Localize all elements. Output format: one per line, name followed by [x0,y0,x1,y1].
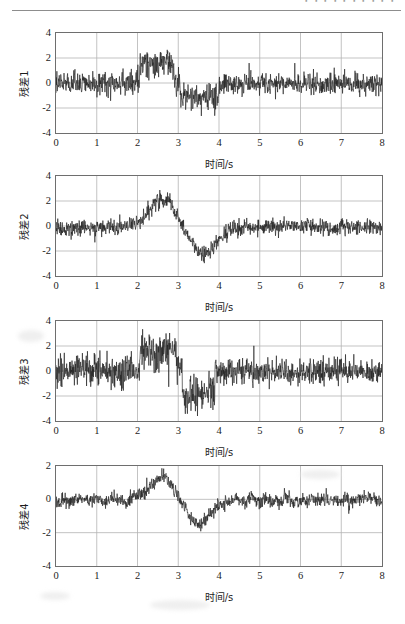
plot-area-4 [55,465,383,567]
x-tick-label: 0 [47,425,65,436]
x-axis-label-4: 时间/s [179,589,259,604]
x-tick-label: 6 [292,280,310,291]
x-tick-label: 1 [88,425,106,436]
x-tick-label: 7 [332,570,350,581]
y-tick-label: 4 [46,171,51,182]
y-tick-label: 2 [46,53,51,64]
x-tick-label: 0 [47,137,65,148]
x-axis-ticks-2: 012345678 [0,280,405,294]
y-tick-label: 0 [46,366,51,377]
x-tick-label: 2 [129,570,147,581]
x-tick-label: 1 [88,280,106,291]
y-axis-label-2: 残差2 [16,197,31,257]
x-tick-label: 3 [169,280,187,291]
y-axis-label-3: 残差3 [16,342,31,402]
y-tick-label: -2 [42,391,51,402]
x-tick-label: 1 [88,137,106,148]
y-tick-label: 2 [46,461,51,472]
x-tick-label: 3 [169,137,187,148]
x-tick-label: 5 [251,280,269,291]
x-axis-label-1: 时间/s [179,156,259,171]
plot-area-1 [55,32,383,134]
x-tick-label: 2 [129,425,147,436]
y-tick-label: 2 [46,196,51,207]
x-axis-ticks-3: 012345678 [0,425,405,439]
y-tick-label: -2 [42,246,51,257]
x-tick-label: 6 [292,570,310,581]
x-tick-label: 8 [373,425,391,436]
x-tick-label: 4 [210,137,228,148]
residual-figure: 420-2-4012345678时间/s残差1420-2-4012345678时… [0,13,405,624]
x-tick-label: 8 [373,570,391,581]
x-tick-label: 3 [169,570,187,581]
x-axis-label-3: 时间/s [179,444,259,459]
x-tick-label: 7 [332,280,350,291]
x-tick-label: 4 [210,280,228,291]
x-tick-label: 0 [47,280,65,291]
y-tick-label: -2 [42,103,51,114]
plot-canvas-1 [56,33,382,133]
x-tick-label: 2 [129,280,147,291]
x-tick-label: 0 [47,570,65,581]
x-tick-label: 2 [129,137,147,148]
page-header-text: ・・・・・・・・・・ [302,0,397,6]
y-tick-label: 0 [46,494,51,505]
x-tick-label: 7 [332,425,350,436]
x-tick-label: 5 [251,425,269,436]
y-tick-label: 0 [46,78,51,89]
x-tick-label: 3 [169,425,187,436]
plot-canvas-4 [56,466,382,566]
x-axis-ticks-4: 012345678 [0,570,405,584]
x-tick-label: 6 [292,137,310,148]
x-tick-label: 5 [251,570,269,581]
x-tick-label: 1 [88,570,106,581]
plot-canvas-3 [56,321,382,421]
x-tick-label: 7 [332,137,350,148]
y-tick-label: 4 [46,28,51,39]
plot-area-2 [55,175,383,277]
plot-canvas-2 [56,176,382,276]
x-tick-label: 6 [292,425,310,436]
y-tick-label: -2 [42,528,51,539]
y-tick-label: 2 [46,341,51,352]
header-divider-rule [12,10,401,11]
x-tick-label: 4 [210,570,228,581]
scanned-page-header: ・・・・・・・・・・ [0,0,405,13]
x-tick-label: 5 [251,137,269,148]
x-tick-label: 4 [210,425,228,436]
plot-area-3 [55,320,383,422]
y-axis-label-1: 残差1 [16,54,31,114]
x-tick-label: 8 [373,137,391,148]
y-tick-label: 4 [46,316,51,327]
x-axis-ticks-1: 012345678 [0,137,405,151]
y-axis-label-4: 残差4 [16,487,31,547]
x-axis-label-2: 时间/s [179,299,259,314]
x-tick-label: 8 [373,280,391,291]
y-tick-label: 0 [46,221,51,232]
